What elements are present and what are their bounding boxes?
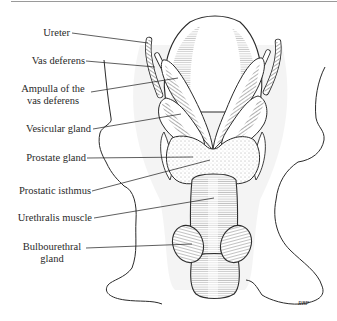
anatomy-figure: RBP Ureter Vas deferens Ampulla of the v… [0,0,337,321]
label-prostatic-isthmus: Prostatic isthmus [6,185,91,197]
leader-line-ureter [72,33,148,43]
artist-signature: RBP [297,300,309,306]
label-ureter: Ureter [38,27,70,39]
label-bulbourethral-gland: Bulbourethral gland [18,241,86,265]
label-prostate-gland: Prostate gland [16,152,86,164]
label-vesicular-gland: Vesicular gland [12,123,91,135]
label-ampulla: Ampulla of the vas deferens [16,83,90,107]
label-urethralis-muscle: Urethralis muscle [6,212,92,224]
label-vas-deferens: Vas deferens [20,55,85,67]
